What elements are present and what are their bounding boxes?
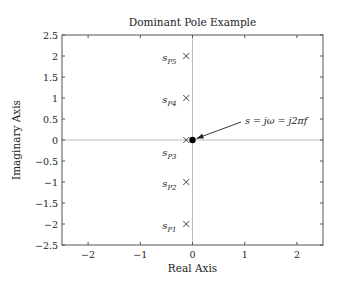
pole-marker: sP5 bbox=[162, 52, 189, 66]
y-axis-label: Imaginary Axis bbox=[10, 100, 22, 180]
y-tick-label: 2 bbox=[52, 51, 58, 62]
y-tick-label: −1 bbox=[44, 177, 58, 188]
annotation-arrow bbox=[197, 122, 242, 139]
pole-label: sP2 bbox=[162, 178, 177, 192]
evaluation-point bbox=[189, 137, 195, 143]
y-tick-label: 2.5 bbox=[43, 30, 58, 41]
x-axis-label: Real Axis bbox=[168, 262, 217, 274]
annotation: s = jω = j2πf bbox=[197, 115, 309, 139]
x-tick-label: −2 bbox=[81, 249, 95, 260]
arrowhead-icon bbox=[197, 134, 204, 139]
pole-label: sP3 bbox=[162, 147, 177, 161]
annotation-text: s = jω = j2πf bbox=[245, 115, 309, 126]
y-tick-label: 1 bbox=[52, 93, 58, 104]
y-tick-label: −1.5 bbox=[35, 198, 58, 209]
x-axis-ticks: −2−1012 bbox=[81, 35, 300, 260]
y-tick-label: −2 bbox=[44, 219, 58, 230]
y-tick-label: 1.5 bbox=[43, 72, 58, 83]
y-tick-label: −0.5 bbox=[35, 156, 58, 167]
pole-marker: sP1 bbox=[162, 220, 189, 234]
pole-label: sP4 bbox=[162, 94, 176, 108]
x-tick-label: 2 bbox=[294, 249, 300, 260]
pole-label: sP1 bbox=[162, 220, 176, 234]
evaluation-point-marker bbox=[189, 137, 195, 143]
pole-markers: sP5sP4sP3sP2sP1 bbox=[162, 52, 189, 234]
pole-label: sP5 bbox=[162, 52, 177, 66]
x-tick-label: 0 bbox=[189, 249, 195, 260]
pole-marker: sP3 bbox=[162, 137, 189, 161]
y-tick-label: 0 bbox=[52, 135, 58, 146]
pole-marker: sP2 bbox=[162, 178, 189, 192]
pole-zero-chart: Dominant Pole Example −2−1012 2.521.510.… bbox=[0, 0, 343, 285]
y-tick-label: −2.5 bbox=[35, 240, 58, 251]
chart-title: Dominant Pole Example bbox=[129, 16, 256, 28]
y-tick-label: 0.5 bbox=[43, 114, 58, 125]
pole-marker: sP4 bbox=[162, 94, 189, 108]
x-tick-label: −1 bbox=[133, 249, 147, 260]
x-tick-label: 1 bbox=[242, 249, 248, 260]
